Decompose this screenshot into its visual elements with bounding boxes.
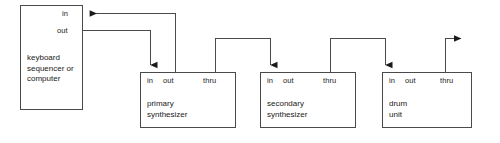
port-label-keyboard-out: out (57, 26, 68, 35)
node-label-keyboard: keyboard sequencer or computer (27, 53, 74, 85)
midi-chain-diagram: in out keyboard sequencer or computer in… (0, 0, 500, 143)
wire-secondary-thru-to-drum-in (331, 39, 386, 73)
port-label-secondary-thru: thru (323, 76, 336, 85)
wire-primary-thru-to-secondary-in (216, 39, 271, 73)
node-label-secondary-synth: secondary synthesizer (267, 99, 307, 120)
port-label-secondary-out: out (283, 76, 294, 85)
port-label-drum-out: out (405, 76, 416, 85)
wire-primary-out-to-keyboard-in (90, 14, 176, 73)
node-label-primary-synth: primary synthesizer (147, 99, 187, 120)
wire-keyboard-out-to-primary-in (83, 31, 151, 66)
port-label-primary-thru: thru (203, 76, 216, 85)
node-label-drum-unit: drum unit (389, 99, 407, 120)
port-label-secondary-in: in (267, 76, 273, 85)
port-label-keyboard-in: in (62, 9, 68, 18)
port-label-primary-out: out (163, 76, 174, 85)
port-label-primary-in: in (147, 76, 153, 85)
port-label-drum-in: in (389, 76, 395, 85)
wire-drum-thru-to-next (446, 39, 462, 73)
port-label-drum-thru: thru (440, 76, 453, 85)
